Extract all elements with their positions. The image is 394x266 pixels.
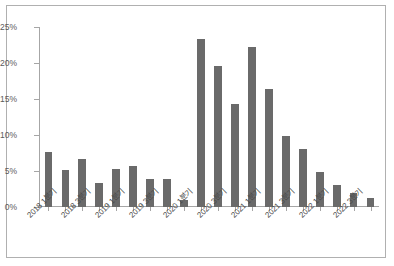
y-tick-label: 5% (5, 167, 17, 176)
x-tick-mark (269, 207, 270, 211)
y-tick-label: 10% (0, 131, 17, 140)
bar[interactable] (282, 136, 290, 207)
x-tick-mark (320, 207, 321, 211)
x-tick-mark (218, 207, 219, 211)
x-tick-mark (99, 207, 100, 211)
x-tick-mark (252, 207, 253, 211)
y-tick-label: 20% (0, 59, 17, 68)
x-tick-mark (48, 207, 49, 211)
x-tick-mark (337, 207, 338, 211)
bar[interactable] (231, 104, 239, 207)
y-tick-mark (34, 171, 39, 172)
bar[interactable] (45, 152, 53, 207)
y-tick-label: 15% (0, 95, 17, 104)
x-tick-mark (150, 207, 151, 211)
x-tick-mark (184, 207, 185, 211)
bar[interactable] (299, 149, 307, 207)
y-tick-mark (34, 207, 39, 208)
bar[interactable] (350, 193, 358, 207)
y-tick-label: 0% (5, 203, 17, 212)
y-tick-mark (34, 135, 39, 136)
bar[interactable] (146, 179, 154, 207)
bar[interactable] (78, 159, 86, 207)
y-tick-mark (34, 99, 39, 100)
chart-frame: 0%5%10%15%20%25% 2018 1분기2018 3분기2019 1분… (6, 5, 386, 258)
bar[interactable] (112, 169, 120, 207)
bar[interactable] (62, 170, 70, 207)
bar[interactable] (95, 183, 103, 207)
bar[interactable] (316, 172, 324, 207)
bar-chart: 0%5%10%15%20%25% 2018 1분기2018 3분기2019 1분… (7, 6, 385, 257)
x-tick-mark (303, 207, 304, 211)
bar[interactable] (367, 198, 375, 207)
x-tick-mark (116, 207, 117, 211)
y-tick-label: 25% (0, 23, 17, 32)
x-tick-mark (167, 207, 168, 211)
bar[interactable] (248, 47, 256, 207)
x-tick-mark (354, 207, 355, 211)
x-tick-mark (133, 207, 134, 211)
bar[interactable] (163, 179, 171, 207)
bar[interactable] (129, 166, 137, 207)
x-tick-mark (371, 207, 372, 211)
bar[interactable] (333, 185, 341, 207)
bar[interactable] (214, 66, 222, 207)
x-tick-mark (235, 207, 236, 211)
bars-container (40, 27, 379, 207)
bar[interactable] (197, 39, 205, 207)
bar[interactable] (265, 89, 273, 207)
y-tick-mark (34, 27, 39, 28)
x-tick-mark (286, 207, 287, 211)
bar[interactable] (180, 200, 188, 207)
x-tick-mark (65, 207, 66, 211)
x-tick-mark (82, 207, 83, 211)
y-tick-mark (34, 63, 39, 64)
x-tick-mark (201, 207, 202, 211)
